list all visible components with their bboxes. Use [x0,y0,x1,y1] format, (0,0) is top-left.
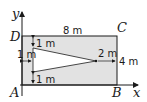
dim-top-width: 8 m [63,25,82,36]
dim-top-gap: 1 m [36,38,55,49]
dim-bottom-gap: 1 m [36,74,55,85]
dim-apex-gap: 2 m [98,48,117,59]
label-c: C [117,20,127,35]
label-y-axis: y [11,6,20,21]
apex-point [95,60,98,63]
label-a: A [9,85,19,100]
label-d: D [9,29,21,44]
dim-left-gap: 1 m [17,49,36,60]
diagram-canvas: D C A B x y 8 m 1 m 1 m 1 m 2 m 4 m [0,0,147,102]
label-x-axis: x [133,85,141,100]
dim-right-height: 4 m [119,56,138,67]
label-b: B [111,85,122,100]
